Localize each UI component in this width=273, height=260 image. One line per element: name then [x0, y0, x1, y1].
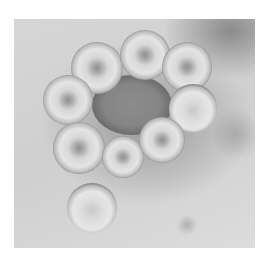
virus-particle-lower-right [139, 117, 185, 163]
virus-particle-bottom [67, 183, 117, 233]
faint-particle-bottom [176, 215, 198, 235]
virus-particle-lower-left [53, 122, 105, 174]
virus-particle-left [43, 75, 93, 125]
electron-micrograph [14, 19, 255, 248]
virus-particle-lower-middle [102, 136, 144, 178]
faint-particle-right [214, 104, 255, 164]
